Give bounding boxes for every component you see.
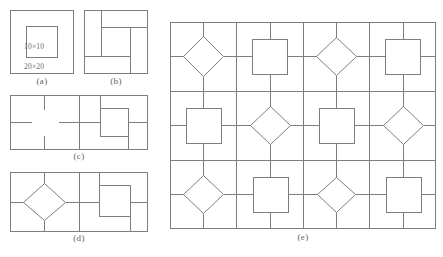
panel-e-cell-r2c4-diamond: [384, 107, 424, 145]
panel-b-drawing: [84, 10, 148, 74]
panel-a-outer-dimension-label: 20×20: [24, 62, 44, 71]
panel-d-caption: (d): [10, 233, 148, 243]
panel-e-drawing: [170, 22, 436, 229]
panel-e-caption: (e): [170, 232, 436, 242]
panel-e-cell-r2c1-square: [187, 109, 222, 144]
panel-e-cell-r3c4-square: [387, 178, 422, 213]
panel-b-caption: (b): [84, 76, 148, 86]
panel-d-right-square: [100, 186, 131, 217]
panel-e-cell-r3c1-diamond: [184, 176, 224, 214]
panel-d-left-diamond: [24, 184, 66, 221]
panel-e-cell-r2c2-diamond: [251, 107, 291, 145]
panel-e-cell-r3c2-square: [254, 178, 289, 213]
panel-d-drawing: [10, 172, 148, 232]
panel-c-drawing: [10, 95, 148, 150]
panel-e-cell-r1c1-diamond: [184, 37, 224, 77]
panel-a-caption: (a): [10, 76, 74, 86]
figure-root: 10×10 20×20 (a) (b) (c): [0, 0, 443, 257]
panel-e-cell-r1c3-diamond: [317, 38, 357, 76]
panel-b-center-square: [102, 28, 131, 57]
panel-e-cell-r1c2-square: [253, 40, 288, 75]
panel-b-cell-border: [85, 11, 148, 74]
panel-a-inner-dimension-label: 10×10: [24, 42, 44, 51]
panel-e-cell-r1c4-square: [386, 40, 421, 75]
panel-e-cell-r2c3-square: [320, 109, 355, 144]
panel-e-cell-r3c3-diamond: [318, 178, 356, 213]
panel-c-caption: (c): [10, 151, 148, 161]
panel-c-right-square: [101, 109, 129, 137]
